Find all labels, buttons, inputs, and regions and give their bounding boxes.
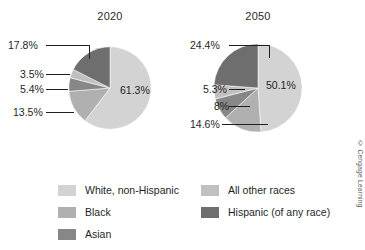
leader-line-hispanic-2020 bbox=[46, 45, 90, 46]
pie-title-2050: 2050 bbox=[218, 10, 298, 22]
legend-item[interactable]: Hispanic (of any race) bbox=[201, 205, 330, 219]
leader-line-asian-2020 bbox=[46, 89, 68, 90]
callout-label-black-2050: 14.6% bbox=[190, 118, 220, 130]
figure-root: 2020 2050 61.3% 50.1% 17.8% 3.5% 5.4% 13… bbox=[0, 0, 365, 250]
legend-label: Asian bbox=[85, 229, 111, 240]
leader-line-all-other-races-2050 bbox=[229, 89, 245, 90]
legend-item[interactable]: White, non-Hispanic bbox=[58, 183, 179, 197]
legend-label: All other races bbox=[228, 185, 295, 196]
pie-slice-hispanic-of-any-race bbox=[214, 44, 258, 88]
pie-slice-label-white-2020: 61.3% bbox=[120, 84, 150, 96]
leader-line-hispanic-2050-drop bbox=[269, 45, 270, 58]
leader-line-black-2020 bbox=[46, 112, 74, 113]
swatch-all-other-races bbox=[201, 185, 219, 196]
legend-column-left: White, non-HispanicBlackAsian bbox=[58, 183, 179, 249]
legend-item[interactable]: All other races bbox=[201, 183, 330, 197]
callout-label-asian-2020: 5.4% bbox=[20, 83, 44, 95]
leader-line-asian-2050 bbox=[229, 106, 250, 107]
legend-item[interactable]: Black bbox=[58, 205, 179, 219]
callout-label-asian-2050: 8% bbox=[214, 100, 229, 112]
callout-label-all-other-races-2020: 3.5% bbox=[20, 68, 44, 80]
copyright-credit: © Cengage Learning bbox=[357, 140, 364, 208]
leader-line-black-2050 bbox=[222, 124, 268, 125]
legend-label: Hispanic (of any race) bbox=[228, 207, 330, 218]
pie-slice-label-white-2050: 50.1% bbox=[266, 79, 296, 91]
swatch-asian bbox=[58, 229, 76, 240]
legend-item[interactable]: Asian bbox=[58, 227, 179, 241]
legend-column-right: All other racesHispanic (of any race) bbox=[201, 183, 330, 227]
leader-line-all-other-races-2020 bbox=[46, 74, 70, 75]
callout-label-black-2020: 13.5% bbox=[13, 106, 43, 118]
leader-line-hispanic-2050 bbox=[229, 45, 270, 46]
callout-label-hispanic-2050: 24.4% bbox=[190, 39, 220, 51]
swatch-hispanic bbox=[201, 207, 219, 218]
pie-title-2020: 2020 bbox=[70, 10, 150, 22]
swatch-white-non-hispanic bbox=[58, 185, 76, 196]
leader-line-hispanic-2020-drop bbox=[89, 45, 90, 59]
legend-label: Black bbox=[85, 207, 111, 218]
callout-label-all-other-races-2050: 5.3% bbox=[203, 83, 227, 95]
swatch-black bbox=[58, 207, 76, 218]
legend-label: White, non-Hispanic bbox=[85, 185, 179, 196]
callout-label-hispanic-2020: 17.8% bbox=[8, 39, 38, 51]
